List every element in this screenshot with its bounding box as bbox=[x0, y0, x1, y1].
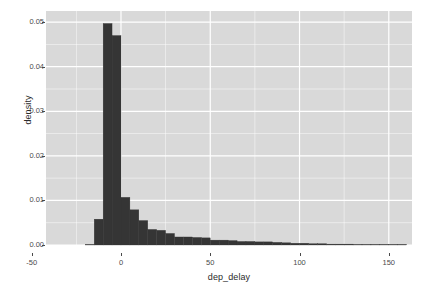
histogram-bar bbox=[317, 244, 326, 245]
y-tick-label: 0.01 bbox=[14, 195, 44, 204]
histogram-bar bbox=[264, 242, 273, 245]
histogram-bar bbox=[103, 23, 112, 245]
y-tick-label: 0.02 bbox=[14, 151, 44, 160]
histogram-bar bbox=[371, 244, 380, 245]
x-tick-mark bbox=[389, 253, 390, 256]
histogram-bar bbox=[282, 243, 291, 245]
y-tick-mark bbox=[42, 156, 45, 157]
x-tick-mark bbox=[300, 253, 301, 256]
y-axis-tick-labels: 0.000.010.020.030.040.05 bbox=[10, 0, 44, 294]
histogram-bar bbox=[237, 241, 246, 245]
histogram-bar bbox=[246, 241, 255, 245]
histogram-bar bbox=[201, 238, 210, 245]
histogram-bar bbox=[362, 244, 371, 245]
histogram-bar bbox=[380, 244, 389, 245]
histogram-bar bbox=[219, 240, 228, 245]
histogram-bar bbox=[353, 244, 362, 245]
histogram-bar bbox=[398, 244, 407, 245]
histogram-bar bbox=[94, 219, 103, 245]
y-tick-label: 0.05 bbox=[14, 17, 44, 26]
histogram-bar bbox=[210, 240, 219, 245]
histogram-bar bbox=[335, 244, 344, 245]
y-tick-label: 0.03 bbox=[14, 106, 44, 115]
histogram-bar bbox=[183, 237, 192, 245]
plot-panel-background bbox=[46, 11, 412, 245]
histogram-bar bbox=[389, 244, 398, 245]
histogram-bar bbox=[326, 244, 335, 245]
histogram-bar bbox=[228, 241, 237, 245]
plot-svg bbox=[0, 0, 423, 294]
x-tick-label: 100 bbox=[280, 258, 320, 267]
histogram-bar bbox=[85, 244, 94, 245]
y-tick-mark bbox=[42, 200, 45, 201]
histogram-bar bbox=[300, 243, 309, 245]
x-axis-title: dep_delay bbox=[46, 272, 412, 282]
y-tick-label: 0.00 bbox=[14, 240, 44, 249]
x-tick-label: 50 bbox=[190, 258, 230, 267]
histogram-bar bbox=[112, 36, 121, 245]
x-tick-mark bbox=[210, 253, 211, 256]
histogram-bar bbox=[192, 237, 201, 245]
histogram-bar bbox=[255, 242, 264, 245]
histogram-bar bbox=[130, 210, 139, 245]
x-tick-label: 0 bbox=[101, 258, 141, 267]
histogram-bar bbox=[175, 237, 184, 245]
x-tick-mark bbox=[121, 253, 122, 256]
y-tick-mark bbox=[42, 245, 45, 246]
histogram-bar bbox=[291, 243, 300, 245]
x-tick-label: -50 bbox=[12, 258, 52, 267]
histogram-bar bbox=[344, 244, 353, 245]
histogram-bar bbox=[157, 230, 166, 245]
y-tick-mark bbox=[42, 111, 45, 112]
histogram-plot: density dep_delay 0.000.010.020.030.040.… bbox=[0, 0, 423, 294]
y-tick-label: 0.04 bbox=[14, 62, 44, 71]
y-tick-mark bbox=[42, 67, 45, 68]
histogram-bar bbox=[139, 220, 148, 245]
x-tick-label: 150 bbox=[369, 258, 409, 267]
y-tick-mark bbox=[42, 22, 45, 23]
histogram-bar bbox=[273, 242, 282, 245]
histogram-bar bbox=[148, 229, 157, 245]
x-axis-tick-labels: -50050100150 bbox=[0, 253, 423, 267]
histogram-bar bbox=[308, 244, 317, 245]
x-tick-mark bbox=[32, 253, 33, 256]
histogram-bar bbox=[121, 197, 130, 245]
histogram-bar bbox=[166, 233, 175, 245]
